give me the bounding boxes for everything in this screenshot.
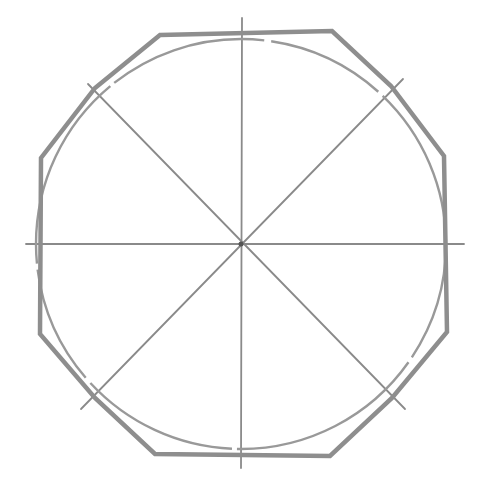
diagonal-nw-se-line (88, 84, 405, 409)
octagon-circle-diagram (0, 0, 484, 483)
center-point (239, 242, 244, 247)
diagram-canvas (0, 0, 484, 483)
construction-lines (26, 18, 464, 468)
